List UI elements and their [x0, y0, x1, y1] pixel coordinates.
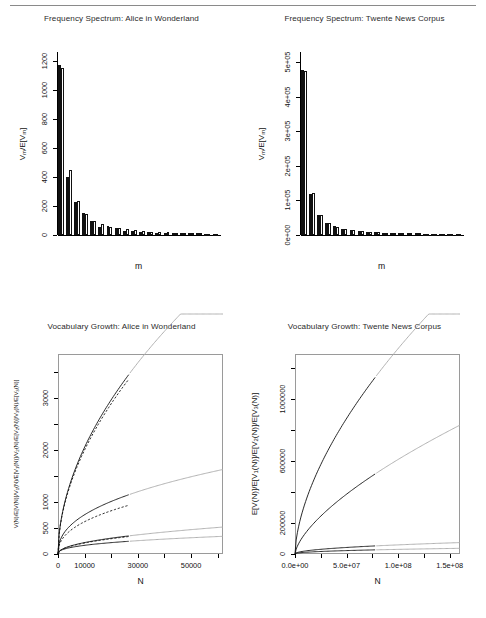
y-tick-label: 1e+05	[283, 190, 292, 211]
bar-expected	[393, 233, 396, 235]
curve-extrapolated-4	[130, 527, 223, 536]
curve-expected-2	[58, 495, 129, 554]
bar-expected	[77, 201, 80, 235]
bar-expected	[328, 223, 331, 235]
bar-expected	[344, 229, 347, 235]
y-tick-label: 0	[41, 552, 50, 556]
y-tick	[54, 398, 58, 399]
y-tick	[54, 476, 58, 477]
y-tick-label: 1000	[41, 494, 50, 510]
bar-expected	[215, 234, 218, 236]
y-tick	[53, 206, 57, 207]
bar-expected	[434, 234, 437, 236]
curve-extrapolated-2	[376, 543, 460, 546]
bar-expected	[312, 193, 315, 235]
y-tick	[54, 372, 58, 373]
y-tick	[291, 399, 295, 400]
x-tick-label: 10000	[74, 561, 95, 570]
bar-expected	[69, 170, 72, 235]
panel-title-vocab-alice: Vocabulary Growth: Alice in Wonderland	[0, 322, 243, 331]
bar-expected	[336, 227, 339, 235]
y-tick-label: 0	[278, 552, 287, 556]
y-tick-label: 3000	[41, 390, 50, 406]
y-tick	[53, 177, 57, 178]
y-tick-label: 400	[40, 171, 49, 183]
x-tick	[218, 554, 219, 558]
curve-expected-4	[58, 536, 129, 554]
y-axis-label: V(N)/E[V(N)]/V1(N)/E[V1(N)]/V2(N)/E[V2(N…	[13, 380, 20, 528]
x-tick	[191, 554, 192, 558]
bar-expected	[361, 231, 364, 235]
bar-expected	[401, 233, 404, 235]
bar-expected	[199, 233, 202, 235]
y-tick	[296, 200, 300, 201]
y-tick	[54, 528, 58, 529]
panel-title-freq-alice: Frequency Spectrum: Alice in Wonderland	[0, 14, 243, 23]
bar-expected	[142, 231, 145, 235]
curve-extrapolated-6	[130, 536, 223, 541]
y-tick	[296, 131, 300, 132]
bar-expected	[385, 233, 388, 235]
bar-expected	[410, 233, 413, 235]
bar-expected	[175, 233, 178, 235]
bar-expected	[126, 229, 129, 235]
y-tick	[54, 450, 58, 451]
x-tick	[347, 554, 348, 558]
x-tick	[85, 554, 86, 558]
y-tick-label: 800	[40, 113, 49, 125]
plot-area-freq-twente: 0e+001e+052e+053e+054e+055e+05mVm/E[Vm]	[300, 52, 463, 235]
y-tick	[291, 461, 295, 462]
x-tick-label: 30000	[128, 561, 149, 570]
y-tick	[296, 97, 300, 98]
bar-expected	[304, 71, 307, 235]
y-tick-label: 600	[40, 142, 49, 154]
panel-freq-alice: Frequency Spectrum: Alice in Wonderland …	[0, 4, 243, 304]
bar-expected	[450, 234, 453, 236]
y-tick-label: 600000	[278, 449, 287, 474]
curve-expected-1	[295, 474, 375, 554]
curve-extrapolated-2	[130, 469, 223, 494]
y-tick-label: 0e+00	[283, 225, 292, 246]
x-tick	[372, 554, 373, 558]
panel-title-vocab-twente: Vocabulary Growth: Twente News Corpus	[243, 322, 486, 331]
bar-expected	[150, 232, 153, 235]
panel-vocab-alice: Vocabulary Growth: Alice in Wonderland 0…	[0, 304, 243, 604]
panel-title-freq-twente: Frequency Spectrum: Twente News Corpus	[243, 14, 486, 23]
bar-expected	[426, 234, 429, 236]
y-axis-label: Vm/E[Vm]	[257, 127, 266, 160]
curve-layer	[295, 354, 460, 554]
x-tick	[398, 554, 399, 558]
curve-layer	[58, 354, 223, 554]
bar-expected	[118, 228, 121, 235]
y-tick	[296, 166, 300, 167]
bar-expected	[93, 221, 96, 235]
y-tick-label: 3e+05	[283, 121, 292, 142]
y-tick	[291, 430, 295, 431]
y-axis-label: E[V(N)]/E[V1(N)]/E[V2(N)]/E[V3(N)]	[250, 393, 259, 516]
x-tick-label: 5.0e+07	[333, 561, 360, 570]
y-tick	[291, 492, 295, 493]
x-axis-label: m	[57, 261, 220, 271]
x-tick	[164, 554, 165, 558]
y-tick	[291, 523, 295, 524]
y-tick-label: 500	[41, 522, 50, 534]
x-tick	[295, 554, 296, 558]
bar-expected	[458, 234, 461, 236]
bar-expected	[183, 233, 186, 235]
y-tick	[53, 90, 57, 91]
y-tick-label: 0	[40, 233, 49, 237]
x-tick-label: 50000	[181, 561, 202, 570]
plot-area-vocab-alice: 05001000200030000100003000050000NV(N)/E[…	[58, 354, 223, 554]
y-axis-label: Vm/E[Vm]	[18, 127, 27, 160]
y-tick	[54, 424, 58, 425]
y-tick-label: 4e+05	[283, 86, 292, 107]
plot-area-freq-alice: 020040060080010001200mVm/E[Vm]	[57, 52, 220, 235]
y-tick	[53, 148, 57, 149]
y-tick-label: 1000	[40, 82, 49, 98]
plot-area-vocab-twente: 020000060000010000000.0e+005.0e+071.0e+0…	[295, 354, 460, 554]
y-tick	[291, 368, 295, 369]
y-tick	[53, 119, 57, 120]
x-tick-label: 1.5e+08	[436, 561, 463, 570]
bar-expected	[418, 233, 421, 235]
panel-vocab-twente: Vocabulary Growth: Twente News Corpus 02…	[243, 304, 486, 604]
